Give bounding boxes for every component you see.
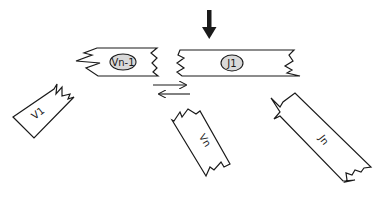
exchange-arrows [153, 85, 190, 94]
segment-vn-1-label: Vn-1 [111, 57, 134, 68]
segment-j1: J1 [177, 50, 300, 76]
segment-jn: Jn [271, 93, 371, 182]
segment-j1-label: J1 [226, 58, 236, 69]
segment-vn: Vn [172, 109, 230, 176]
diagram-canvas: Vn-1 J1 V1 Vn Jn [0, 0, 382, 197]
segment-vn-1: Vn-1 [76, 48, 158, 76]
segment-v1: V1 [13, 84, 74, 138]
down-arrow-icon [202, 10, 217, 39]
